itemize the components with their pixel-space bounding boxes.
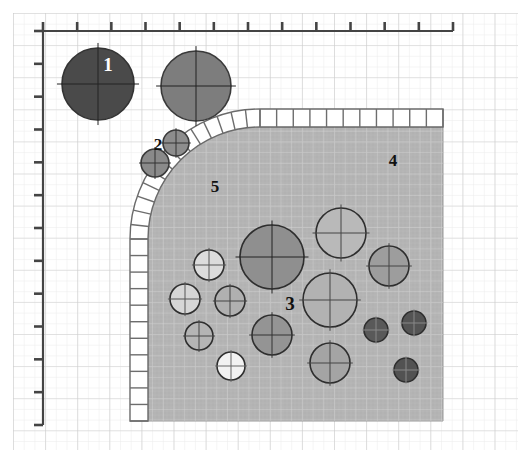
figure-container: 12345 — [0, 0, 525, 457]
callout-label-2: 2 — [154, 135, 163, 154]
callout-label-4: 4 — [389, 151, 398, 170]
callout-label-5: 5 — [211, 177, 220, 196]
callout-label-1: 1 — [103, 54, 113, 75]
schematic-diagram: 12345 — [0, 0, 525, 457]
callout-label-3: 3 — [285, 293, 295, 314]
